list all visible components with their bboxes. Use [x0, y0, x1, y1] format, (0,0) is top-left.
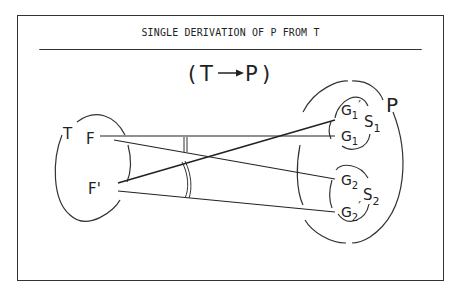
element-g1-prime: G1′ [341, 98, 361, 121]
set-t-label: T [62, 125, 73, 143]
element-f: F [86, 130, 95, 148]
mark-lower-b [185, 161, 191, 198]
svg-text:P: P [245, 62, 258, 86]
arrowhead-icon [236, 70, 244, 77]
svg-text:T: T [199, 62, 213, 86]
subtitle: ( T P ) [188, 62, 270, 86]
derivation-diagram: ( T P ) T F F' P G1′ G1 S1 G2 G2′ S2 [0, 0, 457, 292]
element-f-prime: F' [88, 180, 101, 198]
set-p-label: P [386, 93, 398, 117]
element-g1: G1 [341, 128, 358, 147]
mark-lower-a [182, 162, 188, 198]
set-p-bottom-left-arc [305, 220, 346, 243]
element-g2: G2 [341, 172, 358, 191]
set-t-top-arc [77, 115, 125, 135]
subset-s1-label: S1 [364, 113, 381, 135]
mapping-f-g2 [114, 140, 335, 179]
subset-s2-left-arc [330, 180, 332, 208]
subset-s2-label: S2 [363, 186, 380, 208]
svg-text:): ) [262, 62, 270, 86]
mapping-fprime-g2prime [118, 191, 335, 212]
mapping-lines [100, 120, 335, 212]
svg-text:(: ( [188, 62, 196, 86]
correspondence-marks [182, 137, 191, 198]
set-p-left-arc [297, 145, 303, 205]
element-g2-prime: G2′ [341, 199, 361, 223]
set-t-right-arc [127, 145, 131, 182]
